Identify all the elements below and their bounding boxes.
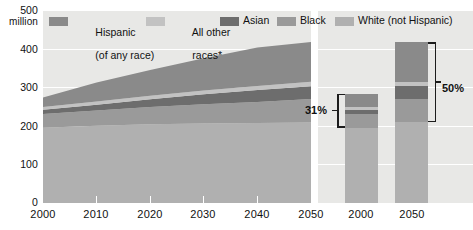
legend-item-hispanic: Hispanic (of any race) [49,15,146,73]
legend-label-hispanic: Hispanic [95,26,135,38]
legend-item-black: Black [277,15,335,27]
legend-item-all-other-races: All other races* [146,15,220,73]
y-axis-label-400: 400 [0,43,38,55]
pct-label-2000: 31% [305,104,327,116]
legend-swatch-asian-icon [220,17,239,26]
y-axis-label-100: 100 [0,158,38,170]
bar-2000 [345,94,378,203]
legend-label-all-other-races: All other [192,26,231,38]
x-axis-label-2040: 2040 [237,208,277,220]
bar-2000-seg-black [345,114,378,128]
bracket-2000 [337,94,345,128]
x-axis-label-2010: 2010 [76,208,116,220]
bar-x-axis-label-2000: 2000 [341,208,381,220]
xtick-2010 [96,196,97,203]
legend-swatch-all-other-races-icon [146,17,165,26]
x-axis-label-2020: 2020 [130,208,170,220]
chart-root: 31% 50% 500 million 400 300 200 100 0 20… [0,0,473,230]
x-axis-label-2050: 2050 [291,208,331,220]
legend-item-white-not-hispanic: White (not Hispanic) [335,15,453,27]
bar-2050-seg-black [395,99,428,122]
xtick-2040 [257,196,258,203]
bar-2050-seg-white [395,122,428,203]
legend-swatch-black-icon [277,17,296,26]
xtick-2030 [203,196,204,203]
y-axis-unit-million: million [0,16,38,27]
y-axis-label-500: 500 [0,4,38,16]
legend-label-white-not-hispanic: White (not Hispanic) [358,15,453,27]
bar-2050-seg-asian [395,86,428,99]
bar-2000-seg-white [345,128,378,203]
legend-swatch-hispanic-icon [49,17,68,26]
y-axis-label-300: 300 [0,81,38,93]
y-axis-label-0: 0 [0,196,38,208]
x-axis-label-2030: 2030 [183,208,223,220]
area-white-not-hispanic [43,122,311,203]
legend-label-asian: Asian [243,15,269,27]
chart-legend: Hispanic (of any race) All other races* … [49,15,453,73]
x-axis-label-2000: 2000 [23,208,63,220]
legend-swatch-white-not-hispanic-icon [335,17,354,26]
bar-x-axis-label-2050: 2050 [392,208,432,220]
xtick-2020 [150,196,151,203]
bar-2000-seg-hispanic [345,94,378,107]
legend-label-all-other-races-sub: races* [192,49,222,61]
pct-label-2050: 50% [442,82,464,94]
y-axis-label-200: 200 [0,120,38,132]
legend-item-asian: Asian [220,15,277,27]
legend-label-black: Black [300,15,326,27]
